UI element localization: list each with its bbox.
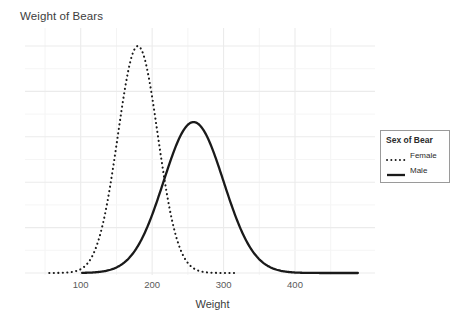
x-tick-label-400: 400 bbox=[275, 279, 315, 290]
legend-label-male: Male bbox=[410, 166, 427, 175]
x-tick-label-200: 200 bbox=[132, 279, 172, 290]
legend-label-female: Female bbox=[410, 151, 437, 160]
plot-panel bbox=[25, 28, 375, 275]
gridlines-minor-x bbox=[45, 28, 331, 275]
legend-title: Sex of Bear bbox=[386, 135, 444, 145]
legend-key-dotted-icon bbox=[386, 151, 406, 161]
legend: Sex of Bear Female Male bbox=[380, 130, 450, 183]
legend-key-solid-icon bbox=[386, 166, 406, 176]
x-tick-label-300: 300 bbox=[204, 279, 244, 290]
gridlines-horizontal bbox=[25, 46, 375, 273]
chart-container: Weight of Bears 100200300400 Weight Sex … bbox=[0, 0, 465, 322]
x-axis-title: Weight bbox=[0, 298, 425, 310]
legend-item-male[interactable]: Male bbox=[386, 165, 444, 176]
plot-svg bbox=[25, 28, 375, 275]
x-tick-label-100: 100 bbox=[61, 279, 101, 290]
chart-title: Weight of Bears bbox=[20, 10, 103, 22]
legend-item-female[interactable]: Female bbox=[386, 150, 444, 161]
